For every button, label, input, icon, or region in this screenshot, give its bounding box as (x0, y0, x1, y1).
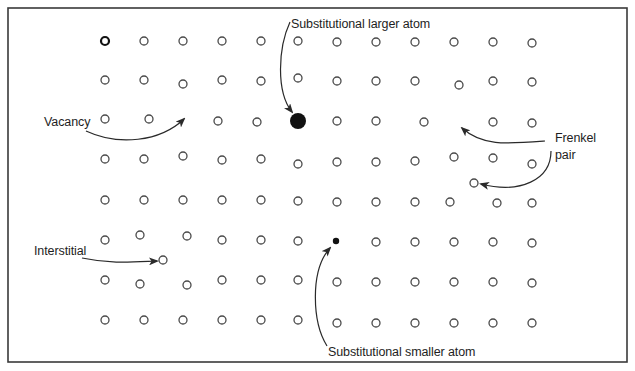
lattice-atom (450, 38, 458, 46)
lattice-atom (489, 278, 497, 286)
arrow-interstitial (82, 258, 157, 262)
lattice-atom (145, 115, 153, 123)
lattice-atom (218, 76, 226, 84)
lattice-atom (294, 316, 302, 324)
lattice-atom (372, 198, 380, 206)
small-substitutional-atom (333, 238, 339, 244)
lattice-atom (136, 231, 144, 239)
lattice-atom (183, 281, 191, 289)
lattice-atom (140, 196, 148, 204)
lattice-atom (179, 316, 187, 324)
lattice-atom (528, 160, 536, 168)
interstitial-atom (159, 256, 167, 264)
arrow-frenkel-vacancy (462, 128, 545, 143)
arrow-substitutional-larger (281, 22, 293, 112)
diagram-frame (8, 8, 627, 362)
lattice-atom (489, 154, 497, 162)
lattice-atom (218, 156, 226, 164)
lattice-atom (528, 119, 536, 127)
lattice-atom (218, 196, 226, 204)
frenkel-interstitial-atom (470, 179, 478, 187)
lattice-atom (528, 319, 536, 327)
large-substitutional-atom (290, 113, 306, 129)
lattice-atom (372, 278, 380, 286)
lattice-atom (446, 198, 454, 206)
lattice-atom (455, 81, 463, 89)
lattice-atom (101, 37, 109, 45)
lattice-atom (294, 160, 302, 168)
lattice-atom (528, 199, 536, 207)
lattice-atom (218, 37, 226, 45)
lattice-atom (372, 319, 380, 327)
lattice-atom (528, 279, 536, 287)
lattice-atom (179, 37, 187, 45)
lattice-atom (372, 158, 380, 166)
lattice-atom (450, 153, 458, 161)
lattice-atom (218, 236, 226, 244)
lattice-atom (411, 157, 419, 165)
lattice-atom (528, 239, 536, 247)
lattice-atom (489, 38, 497, 46)
lattice-atom (333, 319, 341, 327)
arrow-vacancy (86, 119, 184, 140)
lattice-atom (411, 278, 419, 286)
lattice-atom (372, 77, 380, 85)
lattice-atom (257, 37, 265, 45)
lattice-atom (528, 78, 536, 86)
lattice-atom (257, 236, 265, 244)
lattice-atom (333, 158, 341, 166)
lattice-atom (101, 155, 109, 163)
lattice-atom (294, 237, 302, 245)
lattice-atom (411, 38, 419, 46)
lattice-atom (372, 117, 380, 125)
lattice-atom (450, 238, 458, 246)
lattice-atom (450, 319, 458, 327)
lattice-atom (101, 115, 109, 123)
label-substitutional-smaller-atom: Substitutional smaller atom (328, 345, 475, 359)
lattice-atom (333, 38, 341, 46)
lattice-atom (333, 198, 341, 206)
lattice-atom (372, 238, 380, 246)
lattice-atom (257, 77, 265, 85)
lattice-atom (333, 278, 341, 286)
lattice-atom (140, 76, 148, 84)
lattice-atom (179, 80, 187, 88)
lattice-atom (333, 77, 341, 85)
lattice-atom (294, 197, 302, 205)
lattice-atom (489, 118, 497, 126)
lattice-atom (411, 198, 419, 206)
lattice-atom (218, 276, 226, 284)
lattice-atom (101, 276, 109, 284)
lattice-atom (101, 236, 109, 244)
lattice-atom (294, 74, 302, 82)
lattice-atom (140, 316, 148, 324)
label-vacancy: Vacancy (44, 115, 90, 129)
lattice-atom (257, 316, 265, 324)
lattice-atom (257, 155, 265, 163)
lattice-atom (411, 238, 419, 246)
lattice-atom (179, 196, 187, 204)
lattice-atom (214, 117, 222, 125)
lattice-atom (101, 196, 109, 204)
lattice-atom (333, 117, 341, 125)
label-substitutional-larger-atom: Substitutional larger atom (291, 17, 430, 31)
label-interstitial: Interstitial (34, 244, 86, 258)
lattice-atom (179, 152, 187, 160)
lattice-atom (489, 319, 497, 327)
point-defects-diagram (0, 0, 635, 371)
lattice-atom (136, 280, 144, 288)
lattice-atom (450, 278, 458, 286)
lattice-atom (528, 39, 536, 47)
lattice-atom (140, 37, 148, 45)
lattice-atom (411, 77, 419, 85)
lattice-atom (372, 38, 380, 46)
arrow-substitutional-smaller (315, 248, 330, 346)
lattice-atom (411, 319, 419, 327)
lattice-atom (101, 316, 109, 324)
lattice-atom (257, 196, 265, 204)
label-frenkel-pair: pair (555, 148, 575, 162)
lattice-atom (489, 77, 497, 85)
lattice-atom (218, 316, 226, 324)
lattice-atom (183, 232, 191, 240)
lattice-atom (420, 118, 428, 126)
